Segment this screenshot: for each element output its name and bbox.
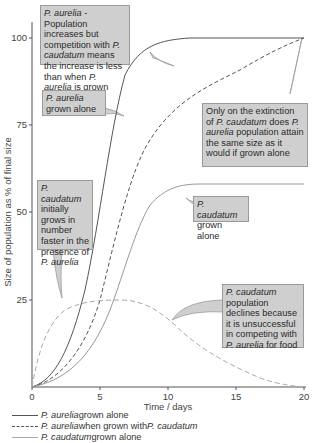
callout-caudatum-initial: P. caudatum initially grows in number fa… bbox=[37, 180, 93, 250]
x-tick-0: 0 bbox=[29, 391, 34, 402]
callout-aurelia-alone: P. aurelia grown alone bbox=[42, 90, 106, 116]
legend-swatch-solid-dark bbox=[12, 415, 38, 416]
y-ticks: 100 75 50 25 bbox=[11, 32, 32, 305]
callout-caudatum-decline: P. caudatum population declines because … bbox=[222, 284, 304, 348]
y-tick-50: 50 bbox=[16, 206, 27, 217]
y-tick-75: 75 bbox=[16, 119, 27, 130]
legend-item-aurelia-alone: P. aurelia grown alone bbox=[12, 410, 129, 420]
x-tick-20: 20 bbox=[299, 391, 310, 402]
legend-swatch-dashed-dark bbox=[12, 426, 38, 427]
x-tick-15: 15 bbox=[231, 391, 242, 402]
y-axis-title: Size of population as % of final size bbox=[2, 137, 13, 286]
legend-item-aurelia-with-caudatum: P. aurelia when grown with P. caudatum bbox=[12, 421, 197, 431]
callout-extinction: Only on the extinction of P. caudatum do… bbox=[202, 103, 308, 167]
y-tick-25: 25 bbox=[16, 294, 27, 305]
legend-swatch-solid-light bbox=[12, 437, 38, 438]
callout-aurelia-competition: P. aurelia - Population increases but co… bbox=[40, 5, 130, 65]
y-tick-100: 100 bbox=[11, 32, 27, 43]
x-axis-title: Time / days bbox=[144, 401, 193, 412]
x-tick-5: 5 bbox=[97, 391, 102, 402]
x-ticks: 0 5 10 15 20 bbox=[29, 387, 309, 402]
legend-item-caudatum-alone: P. caudatum grown alone bbox=[12, 432, 141, 442]
callout-caudatum-alone: P. caudatum grown alone bbox=[193, 196, 249, 222]
